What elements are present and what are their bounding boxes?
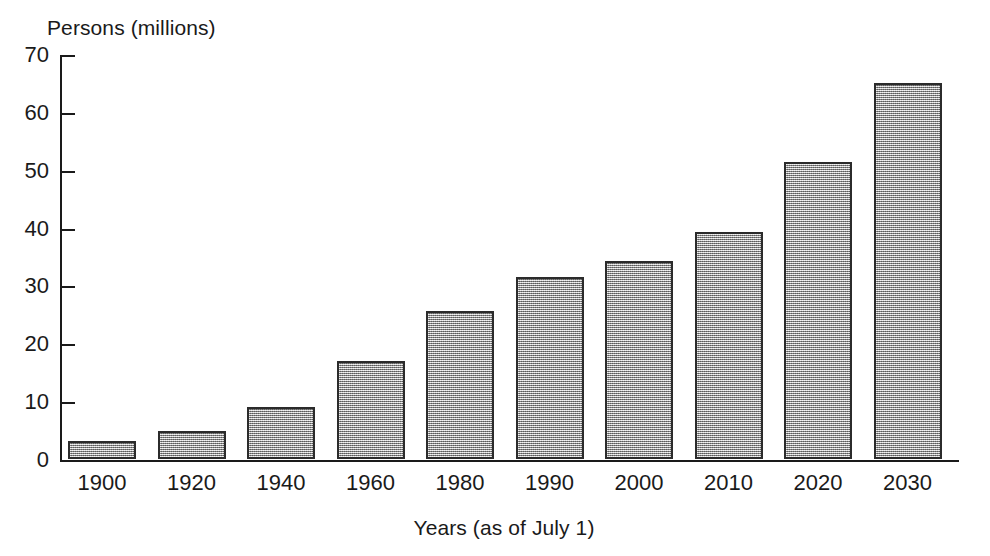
y-tick-mark <box>62 402 75 404</box>
y-tick-label: 30 <box>25 273 49 299</box>
y-tick: 10 <box>60 402 75 404</box>
x-tick-label: 1900 <box>62 470 142 496</box>
y-tick-label: 40 <box>25 216 49 242</box>
y-tick-label: 70 <box>25 42 49 68</box>
y-tick: 20 <box>60 344 75 346</box>
y-tick-label: 10 <box>25 389 49 415</box>
bar <box>337 361 405 459</box>
bar <box>516 277 584 459</box>
x-axis-title-text: Years (as of July 1) <box>414 516 595 540</box>
bar <box>247 407 315 459</box>
chart-page: Persons (millions) 010203040506070 19001… <box>0 0 990 556</box>
y-tick-mark <box>62 229 75 231</box>
x-tick-label: 2010 <box>689 470 769 496</box>
x-tick-label: 1940 <box>241 470 321 496</box>
x-tick-label: 1920 <box>152 470 232 496</box>
y-tick-label: 50 <box>25 158 49 184</box>
bar <box>605 261 673 459</box>
bar <box>874 83 942 459</box>
y-tick-mark <box>62 55 75 57</box>
y-tick-label: 20 <box>25 331 49 357</box>
y-axis-title: Persons (millions) <box>47 16 216 40</box>
bar <box>68 441 136 459</box>
bar <box>695 232 763 459</box>
x-tick-label: 1990 <box>510 470 590 496</box>
y-tick: 30 <box>60 286 75 288</box>
y-tick: 0 <box>60 460 75 462</box>
y-tick-mark <box>62 113 75 115</box>
x-tick-label: 2000 <box>599 470 679 496</box>
x-tick-label: 2020 <box>778 470 858 496</box>
y-tick-mark <box>62 344 75 346</box>
x-axis-line <box>60 460 959 462</box>
bar <box>158 431 226 459</box>
y-tick: 60 <box>60 113 75 115</box>
y-axis-line <box>60 55 62 462</box>
bar <box>784 162 852 459</box>
y-tick-mark <box>62 286 75 288</box>
y-tick-label: 60 <box>25 100 49 126</box>
x-tick-label: 2030 <box>868 470 948 496</box>
y-tick-label: 0 <box>37 447 49 473</box>
y-tick: 70 <box>60 55 75 57</box>
x-tick-label: 1980 <box>420 470 500 496</box>
y-tick: 50 <box>60 171 75 173</box>
y-tick-mark <box>62 171 75 173</box>
y-tick: 40 <box>60 229 75 231</box>
x-axis-title: Years (as of July 1) <box>0 516 990 540</box>
x-tick-label: 1960 <box>331 470 411 496</box>
plot-area: 010203040506070 <box>60 55 957 461</box>
bar <box>426 311 494 459</box>
